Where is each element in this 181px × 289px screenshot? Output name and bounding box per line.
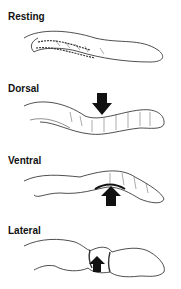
organ-resting: [0, 20, 181, 70]
arrow-up-icon: [101, 186, 121, 206]
organ-dorsal: [0, 92, 181, 147]
organ-ventral: [0, 163, 181, 213]
arrow-up-icon: [89, 256, 105, 272]
arrow-down-icon: [92, 93, 112, 115]
